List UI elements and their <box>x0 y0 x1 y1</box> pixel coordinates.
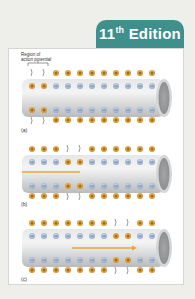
ion-flow-arrow <box>31 69 32 76</box>
axon-end-cap <box>159 158 170 190</box>
ion-flow-arrow <box>127 219 128 226</box>
ion-flow-arrow <box>79 145 80 152</box>
ion-flow-arrow <box>115 267 116 274</box>
axon-end-cap <box>159 82 170 114</box>
ion-flow-arrow <box>43 69 44 76</box>
ion-flow-arrow <box>115 219 116 226</box>
ion-flow-arrow <box>127 267 128 274</box>
nerve-impulse-diagram <box>0 0 195 299</box>
ion-flow-arrow <box>67 193 68 200</box>
ion-flow-arrow <box>43 117 44 124</box>
axon-end-cap <box>159 232 170 264</box>
ion-flow-arrow <box>31 117 32 124</box>
region-bracket <box>28 61 48 66</box>
ion-flow-arrow <box>79 193 80 200</box>
ion-flow-arrow <box>67 145 68 152</box>
